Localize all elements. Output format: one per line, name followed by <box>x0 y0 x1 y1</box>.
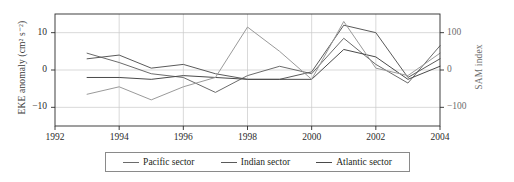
x-tick-label: 1996 <box>163 132 203 142</box>
y-tick-label-right: 0 <box>447 64 475 74</box>
y-tick-label-left: 0 <box>23 64 47 74</box>
legend-swatch-pacific <box>123 162 139 163</box>
legend-swatch-atlantic <box>316 162 332 163</box>
x-tick-label: 1998 <box>228 132 268 142</box>
x-tick-label: 2004 <box>420 132 460 142</box>
series-atlantic-sector <box>87 49 440 79</box>
series-sam-index <box>87 21 440 99</box>
x-tick-label: 1992 <box>35 132 75 142</box>
legend-label-pacific: Pacific sector <box>143 157 194 167</box>
data-series-layer <box>87 21 440 99</box>
x-tick-label: 2000 <box>292 132 332 142</box>
legend-swatch-indian <box>221 162 237 163</box>
legend-item-pacific[interactable]: Pacific sector <box>123 157 194 167</box>
y-tick-label-right: −100 <box>447 101 475 111</box>
y-tick-label-left: 10 <box>23 27 47 37</box>
legend-item-indian[interactable]: Indian sector <box>221 157 290 167</box>
chart-figure: EKE anomaly (cm² s⁻²) SAM index −10010−1… <box>0 0 514 182</box>
y-tick-label-right: 100 <box>447 27 475 37</box>
legend-item-atlantic[interactable]: Atlantic sector <box>316 157 392 167</box>
x-tick-label: 2002 <box>356 132 396 142</box>
legend-label-indian: Indian sector <box>241 157 290 167</box>
y-tick-label-left: −10 <box>23 101 47 111</box>
x-tick-label: 1994 <box>99 132 139 142</box>
chart-legend: Pacific sector Indian sector Atlantic se… <box>105 152 410 172</box>
y-axis-right-title: SAM index <box>474 8 484 126</box>
legend-label-atlantic: Atlantic sector <box>336 157 392 167</box>
